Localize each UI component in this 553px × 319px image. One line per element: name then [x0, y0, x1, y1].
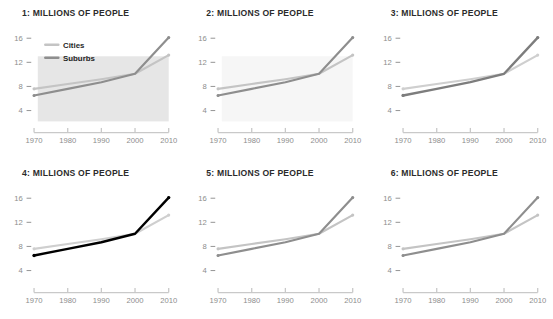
plot-area: 16128419701980199020002010	[375, 180, 547, 308]
y-tick-label: 4	[19, 106, 24, 115]
x-tick-label: 2000	[311, 295, 328, 304]
plot-svg: 16128419701980199020002010	[6, 180, 178, 308]
chart-panel-6: 6: MILLIONS OF PEOPLE1612841970198019902…	[369, 160, 553, 319]
data-point-cities	[33, 87, 36, 90]
panel-title: 1: MILLIONS OF PEOPLE	[22, 8, 178, 18]
plot-area: 16128419701980199020002010CitiesSuburbs	[6, 20, 178, 148]
data-point-suburbs	[167, 36, 170, 39]
legend-label-cities: Cities	[63, 41, 85, 50]
x-tick-label: 1980	[244, 136, 261, 145]
y-tick-label: 16	[199, 34, 208, 43]
data-point-suburbs	[401, 253, 404, 256]
x-tick-label: 2010	[160, 295, 177, 304]
y-tick-label: 4	[387, 266, 392, 275]
y-tick-label: 16	[383, 194, 392, 203]
panel-title: 5: MILLIONS OF PEOPLE	[206, 168, 362, 178]
x-tick-label: 1990	[462, 136, 479, 145]
data-point-suburbs	[33, 94, 36, 97]
chart-panel-5: 5: MILLIONS OF PEOPLE1612841970198019902…	[184, 160, 368, 319]
data-point-cities	[167, 213, 170, 216]
data-point-suburbs	[401, 94, 404, 97]
legend-label-suburbs: Suburbs	[63, 54, 95, 63]
y-tick-label: 12	[383, 218, 392, 227]
chart-panel-1: 1: MILLIONS OF PEOPLE1612841970198019902…	[0, 0, 184, 160]
x-tick-label: 1980	[428, 295, 445, 304]
y-tick-label: 8	[203, 82, 207, 91]
x-tick-label: 2010	[529, 295, 546, 304]
x-tick-label: 2010	[529, 136, 546, 145]
plot-area: 16128419701980199020002010	[375, 20, 547, 148]
x-tick-label: 2010	[160, 136, 177, 145]
data-point-cities	[536, 213, 539, 216]
data-point-cities	[351, 213, 354, 216]
x-tick-label: 2010	[345, 136, 362, 145]
panel-title: 2: MILLIONS OF PEOPLE	[206, 8, 362, 18]
x-tick-label: 1970	[394, 136, 411, 145]
x-tick-label: 1980	[244, 295, 261, 304]
y-tick-label: 4	[203, 106, 208, 115]
panel-title: 6: MILLIONS OF PEOPLE	[391, 168, 547, 178]
data-point-cities	[217, 87, 220, 90]
data-point-cities	[536, 54, 539, 57]
y-tick-label: 16	[199, 194, 208, 203]
data-point-cities	[401, 87, 404, 90]
y-tick-label: 16	[14, 194, 23, 203]
y-tick-label: 12	[199, 58, 208, 67]
x-tick-label: 2000	[495, 295, 512, 304]
plot-svg: 16128419701980199020002010CitiesSuburbs	[6, 20, 178, 148]
chart-panel-4: 4: MILLIONS OF PEOPLE1612841970198019902…	[0, 160, 184, 319]
y-tick-label: 8	[387, 242, 391, 251]
plot-svg: 16128419701980199020002010	[190, 180, 362, 308]
y-tick-label: 12	[14, 58, 23, 67]
chart-panel-3: 3: MILLIONS OF PEOPLE1612841970198019902…	[369, 0, 553, 160]
y-tick-label: 8	[387, 82, 391, 91]
y-tick-label: 4	[203, 266, 208, 275]
y-tick-label: 16	[383, 34, 392, 43]
x-tick-label: 2000	[495, 136, 512, 145]
x-tick-label: 2000	[127, 136, 144, 145]
chart-grid: 1: MILLIONS OF PEOPLE1612841970198019902…	[0, 0, 553, 319]
plot-area: 16128419701980199020002010	[190, 180, 362, 308]
data-point-cities	[167, 54, 170, 57]
plot-svg: 16128419701980199020002010	[190, 20, 362, 148]
x-tick-label: 1970	[210, 295, 227, 304]
data-point-suburbs	[167, 195, 170, 198]
data-point-cities	[351, 54, 354, 57]
y-tick-label: 8	[19, 242, 23, 251]
y-tick-label: 8	[19, 82, 23, 91]
x-tick-label: 2000	[311, 136, 328, 145]
plot-area: 16128419701980199020002010	[190, 20, 362, 148]
x-tick-label: 1990	[277, 295, 294, 304]
y-tick-label: 12	[383, 58, 392, 67]
x-tick-label: 1970	[26, 136, 43, 145]
data-point-suburbs	[217, 253, 220, 256]
data-point-cities	[217, 247, 220, 250]
x-tick-label: 1990	[93, 295, 110, 304]
x-tick-label: 1980	[59, 136, 76, 145]
x-tick-label: 1980	[428, 136, 445, 145]
y-tick-label: 12	[14, 218, 23, 227]
panel-title: 4: MILLIONS OF PEOPLE	[22, 168, 178, 178]
data-point-suburbs	[217, 94, 220, 97]
data-point-cities	[401, 247, 404, 250]
data-point-suburbs	[351, 36, 354, 39]
panel-title: 3: MILLIONS OF PEOPLE	[391, 8, 547, 18]
x-tick-label: 1990	[93, 136, 110, 145]
data-point-suburbs	[536, 196, 539, 199]
data-point-suburbs	[32, 253, 35, 256]
y-tick-label: 16	[14, 34, 23, 43]
y-tick-label: 12	[199, 218, 208, 227]
x-tick-label: 1970	[394, 295, 411, 304]
x-tick-label: 1970	[210, 136, 227, 145]
x-tick-label: 1990	[277, 136, 294, 145]
y-tick-label: 4	[387, 106, 392, 115]
y-tick-label: 4	[19, 266, 24, 275]
x-tick-label: 1970	[26, 295, 43, 304]
x-tick-label: 2010	[345, 295, 362, 304]
x-tick-label: 2000	[127, 295, 144, 304]
data-point-suburbs	[351, 196, 354, 199]
x-tick-label: 1990	[462, 295, 479, 304]
y-tick-label: 8	[203, 242, 207, 251]
chart-panel-2: 2: MILLIONS OF PEOPLE1612841970198019902…	[184, 0, 368, 160]
plot-svg: 16128419701980199020002010	[375, 180, 547, 308]
